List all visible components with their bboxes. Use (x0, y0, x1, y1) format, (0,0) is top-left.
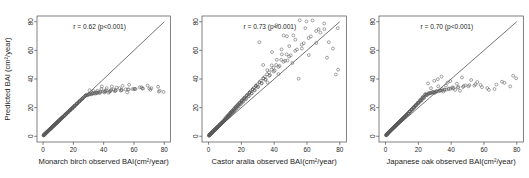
x-tick-label: 0 (207, 146, 211, 153)
data-point (455, 82, 458, 85)
data-point (493, 88, 496, 91)
data-point (475, 81, 478, 84)
x-tick-label: 80 (337, 146, 345, 153)
data-point (271, 51, 274, 54)
data-point (126, 91, 129, 94)
x-tick-label: 80 (161, 146, 169, 153)
x-tick-label: 40 (100, 146, 108, 153)
data-point (323, 28, 326, 31)
data-point (146, 84, 149, 87)
reference-line-1-to-1 (209, 22, 340, 137)
data-points (384, 74, 517, 136)
data-point (503, 81, 506, 84)
data-point (487, 88, 490, 91)
y-tick-label: 80 (27, 18, 34, 26)
x-tick-label: 0 (383, 146, 387, 153)
y-tick-label: 80 (193, 18, 200, 26)
plot-svg: 020406080020406080Castor aralia observed… (176, 0, 352, 178)
data-point (311, 19, 314, 22)
data-point (266, 69, 269, 72)
data-point (480, 86, 483, 89)
data-point (337, 27, 340, 30)
y-tick-label: 20 (27, 104, 34, 112)
y-tick-label: 20 (193, 104, 200, 112)
data-point (128, 83, 131, 86)
figure-container: 020406080020406080Monarch birch observed… (0, 0, 529, 178)
y-tick-label: 40 (369, 75, 376, 83)
plot-svg: 020406080020406080Japanese oak observed … (353, 0, 529, 178)
data-point (432, 79, 435, 82)
data-point (271, 64, 274, 67)
data-point (469, 79, 472, 82)
data-point (328, 41, 331, 44)
plot-svg: 020406080020406080Monarch birch observed… (0, 0, 176, 178)
data-point (105, 87, 108, 90)
data-point (280, 58, 283, 61)
data-point (337, 68, 340, 71)
data-point (436, 78, 439, 81)
correlation-annotation: r = 0.70 (p<0.001) (420, 23, 473, 31)
data-point (266, 81, 269, 84)
data-points (42, 83, 165, 137)
correlation-annotation: r = 0.73 (p<0.001) (244, 23, 297, 31)
data-point (288, 45, 291, 48)
data-point (299, 19, 302, 22)
data-point (301, 43, 304, 46)
data-point (429, 87, 432, 90)
data-point (485, 87, 488, 90)
data-point (460, 76, 463, 79)
data-point (508, 85, 511, 88)
data-point (317, 28, 320, 31)
x-tick-label: 20 (414, 146, 422, 153)
y-tick-label: 0 (193, 134, 200, 138)
x-tick-label: 60 (130, 146, 138, 153)
data-points (208, 19, 340, 137)
y-tick-label: 80 (369, 18, 376, 26)
data-point (511, 74, 514, 77)
data-point (262, 64, 265, 67)
data-point (319, 31, 322, 34)
data-point (294, 38, 297, 41)
correlation-annotation: r = 0.62 (p<0.001) (73, 23, 126, 31)
y-tick-label: 40 (27, 75, 34, 83)
data-point (301, 47, 304, 50)
y-tick-label: 0 (369, 134, 376, 138)
y-tick-label: 20 (369, 104, 376, 112)
data-point (514, 77, 517, 80)
y-tick-label: 40 (193, 75, 200, 83)
data-point (286, 35, 289, 38)
x-tick-label: 60 (480, 146, 488, 153)
x-tick-label: 40 (447, 146, 455, 153)
data-point (495, 83, 498, 86)
data-point (258, 41, 261, 44)
data-point (464, 84, 467, 87)
data-point (292, 34, 295, 37)
y-tick-label: 0 (27, 134, 34, 138)
data-point (297, 77, 300, 80)
reference-line-1-to-1 (385, 22, 516, 137)
data-point (308, 54, 311, 57)
data-point (118, 87, 121, 90)
x-tick-label: 0 (41, 146, 45, 153)
data-point (276, 58, 279, 61)
y-tick-label: 60 (193, 46, 200, 54)
x-axis-title: Castor aralia observed BAI(cm²/year) (212, 157, 338, 166)
data-point (304, 27, 307, 30)
data-point (310, 35, 313, 38)
data-point (323, 22, 326, 25)
scatter-panel-castor-aralia: 020406080020406080Castor aralia observed… (176, 0, 352, 178)
x-tick-label: 60 (304, 146, 312, 153)
data-point (286, 53, 289, 56)
data-point (157, 85, 160, 88)
scatter-panel-japanese-oak: 020406080020406080Japanese oak observed … (353, 0, 529, 178)
x-axis-title: Monarch birch observed BAI(cm²/year) (39, 157, 170, 166)
data-point (458, 89, 461, 92)
data-point (275, 64, 278, 67)
x-tick-label: 20 (70, 146, 78, 153)
data-point (332, 47, 335, 50)
data-point (453, 88, 456, 91)
data-point (326, 56, 329, 59)
data-point (121, 84, 124, 87)
data-point (335, 73, 338, 76)
y-tick-label: 60 (27, 46, 34, 54)
